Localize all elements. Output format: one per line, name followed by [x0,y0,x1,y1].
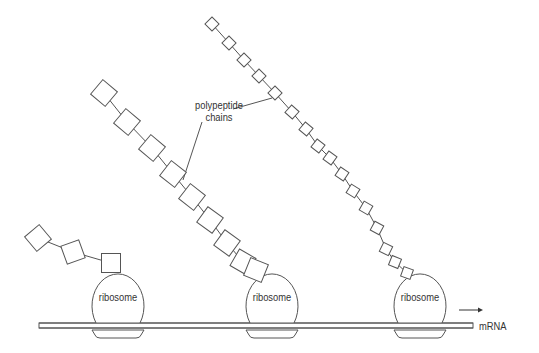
direction-arrow-icon [459,308,483,313]
mrna-label: mRNA [479,320,507,332]
callout-label-line2: chains [181,111,258,123]
amino-acid-square-chain2-1 [91,80,118,107]
ribosome-small-subunit [394,330,446,338]
ribosome-label-2: ribosome [242,291,302,303]
amino-acid-square-chain3-12 [359,201,373,215]
amino-acid-square-chain2-4 [160,161,187,188]
amino-acid-square-chain3-11 [346,184,360,198]
callout-label-line1: polypeptide [181,99,258,111]
ribosome-label-1: ribosome [88,291,148,303]
ribosome-label-3: ribosome [390,291,450,303]
ribosome-small-subunit [246,330,298,338]
callout-leader-middle [183,122,202,180]
amino-acid-square-chain3-14 [379,242,392,255]
mrna-strand [39,323,473,328]
amino-acid-square-chain3-13 [370,221,384,235]
amino-acid-square-chain3-10 [335,167,349,181]
amino-acid-square-chain1-2 [61,240,85,264]
amino-acid-square-chain1-3 [102,254,121,273]
amino-acid-square-chain2-5 [179,184,206,211]
amino-acid-square-chain2-7 [214,230,241,257]
amino-acid-square-chain3-7 [299,122,313,136]
ribosome-small-subunit [92,330,144,338]
amino-acid-square-chain1-1 [25,225,52,252]
polypeptide-squares [25,17,414,282]
amino-acid-square-chain2-6 [197,207,224,234]
